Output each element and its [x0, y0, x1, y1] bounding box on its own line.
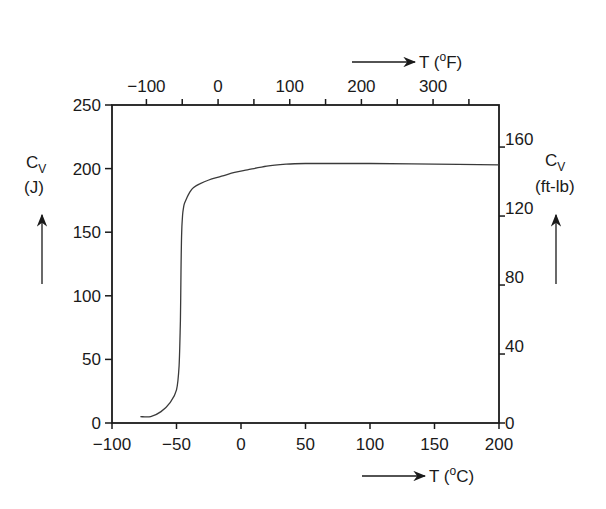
- y-tick-label: 200: [73, 160, 101, 179]
- impact-energy-curve: [140, 163, 499, 417]
- y2-tick-label: 0: [505, 414, 514, 433]
- x-axis-bottom-title: T (oC): [362, 464, 474, 486]
- x2-tick-label: 300: [419, 77, 447, 96]
- x2-tick-label: −100: [127, 77, 165, 96]
- svg-text:T (oF): T (oF): [419, 50, 462, 72]
- svg-text:CV: CV: [26, 153, 46, 176]
- plot-area: [112, 105, 499, 423]
- y-tick-label: 250: [73, 96, 101, 115]
- x-axis-bottom: −100−50050100150200: [93, 423, 513, 454]
- y2-tick-label: 40: [505, 337, 524, 356]
- x-tick-label: −50: [162, 435, 191, 454]
- x-tick-label: 0: [236, 435, 245, 454]
- y-tick-label: 150: [73, 223, 101, 242]
- svg-text:CV: CV: [545, 151, 565, 174]
- svg-text:(ft-lb): (ft-lb): [535, 177, 575, 196]
- x-tick-label: 150: [420, 435, 448, 454]
- x-tick-label: 100: [356, 435, 384, 454]
- svg-text:T (oC): T (oC): [429, 464, 474, 486]
- x-tick-label: 50: [296, 435, 315, 454]
- y-tick-label: 100: [73, 287, 101, 306]
- plot-frame: [112, 105, 499, 423]
- y-axis-right-title: CV (ft-lb): [535, 151, 575, 284]
- x2-tick-label: 100: [276, 77, 304, 96]
- svg-text:(J): (J): [24, 178, 44, 197]
- x2-tick-label: 0: [213, 77, 222, 96]
- x2-tick-label: 200: [347, 77, 375, 96]
- x-axis-top-title: T (oF): [352, 50, 462, 72]
- y2-tick-label: 120: [505, 199, 533, 218]
- y-tick-label: 50: [82, 350, 101, 369]
- y-axis-left: 050100150200250: [73, 96, 112, 433]
- y-axis-right: 04080120160: [499, 130, 533, 433]
- y-axis-left-title: CV (J): [24, 153, 46, 284]
- x-tick-label: 200: [485, 435, 513, 454]
- charpy-impact-chart: −100−50050100150200 050100150200250 −100…: [0, 0, 606, 509]
- x-tick-label: −100: [93, 435, 131, 454]
- y-tick-label: 0: [92, 414, 101, 433]
- y2-tick-label: 80: [505, 268, 524, 287]
- y2-tick-label: 160: [505, 130, 533, 149]
- x-axis-top: −1000100200300: [127, 77, 469, 105]
